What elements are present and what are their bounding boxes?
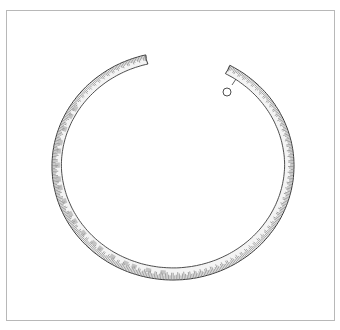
cross-section-circle — [223, 88, 231, 96]
bracelet-drawing — [0, 0, 340, 330]
section-marker — [223, 79, 236, 96]
bracelet-ring — [52, 55, 294, 280]
cross-section-tick — [232, 79, 236, 85]
